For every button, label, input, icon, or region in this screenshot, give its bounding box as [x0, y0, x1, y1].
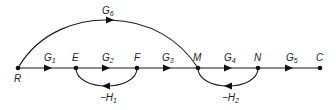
gain-label-g1: G1 [44, 52, 56, 64]
node-label-m: M [193, 52, 202, 63]
arrow-g5-icon [285, 65, 293, 72]
arrow-g4-icon [224, 65, 232, 72]
node-m [196, 66, 201, 71]
gain-label-g6: G6 [102, 5, 114, 17]
node-label-f: F [134, 52, 141, 63]
edge-h1-loop [76, 68, 137, 86]
arrow-g2-icon [102, 65, 110, 72]
arrow-g1-icon [44, 65, 52, 72]
arrow-h2-icon [224, 83, 232, 90]
gain-label-h1: −H1 [100, 92, 117, 104]
node-c [318, 66, 323, 71]
node-label-e: E [72, 52, 79, 63]
node-f [135, 66, 140, 71]
node-e [74, 66, 79, 71]
gain-label-g2: G2 [102, 52, 114, 64]
gain-label-g3: G3 [162, 52, 174, 64]
arrow-g6-icon [106, 17, 114, 24]
gain-label-h2: −H2 [222, 92, 239, 104]
gain-label-g5: G5 [286, 52, 298, 64]
edge-h2-loop [198, 68, 258, 86]
gain-label-g4: G4 [224, 52, 236, 64]
arrow-h1-icon [102, 83, 110, 90]
signal-flow-graph: R E F M N C G1 G2 G3 G4 G5 G6 −H1 −H2 [0, 0, 336, 110]
node-r [16, 66, 21, 71]
arrow-g3-icon [163, 65, 171, 72]
node-n [256, 66, 261, 71]
node-label-n: N [254, 52, 262, 63]
node-label-r: R [14, 73, 21, 84]
node-label-c: C [316, 52, 324, 63]
